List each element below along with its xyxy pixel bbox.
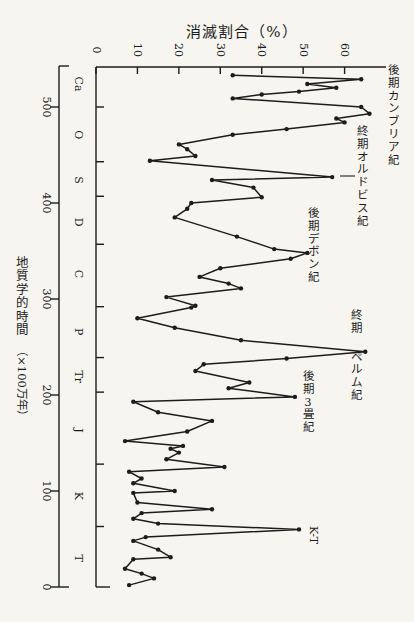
data-point	[297, 89, 301, 93]
period-label-p: P	[72, 328, 85, 336]
data-point	[173, 326, 177, 330]
data-point	[144, 535, 148, 539]
data-point	[210, 178, 214, 182]
data-point	[189, 305, 193, 309]
data-point	[284, 127, 288, 131]
data-point	[185, 147, 189, 151]
data-point	[131, 517, 135, 521]
data-point	[185, 207, 189, 211]
data-point	[231, 73, 235, 77]
data-point	[131, 557, 135, 561]
period-label-tr: Tr	[72, 370, 85, 383]
data-point	[359, 77, 363, 81]
data-point	[202, 362, 206, 366]
data-point	[181, 444, 185, 448]
data-point	[210, 507, 214, 511]
extinction-series-line	[125, 75, 370, 585]
data-point	[135, 316, 139, 320]
data-point	[342, 120, 346, 124]
data-point	[168, 447, 172, 451]
data-point	[210, 419, 214, 423]
time-axis-tick-label: 100	[40, 481, 53, 502]
data-point	[131, 400, 135, 404]
data-point	[284, 356, 288, 360]
data-point	[231, 133, 235, 137]
data-point	[293, 395, 297, 399]
period-label-s: S	[72, 176, 85, 184]
data-point	[193, 369, 197, 373]
pct-axis-tick-label: 20	[172, 43, 185, 57]
data-point	[359, 105, 363, 109]
data-point	[334, 86, 338, 90]
time-axis-title-char: 間	[16, 322, 29, 337]
annotation-3-char: 紀	[351, 388, 363, 402]
annotation-5: K-T	[307, 526, 320, 545]
pct-axis-tick-label: 10	[131, 43, 144, 57]
data-point	[131, 491, 135, 495]
data-point	[305, 82, 309, 86]
data-point	[135, 500, 139, 504]
data-point	[363, 350, 367, 354]
time-axis-title-unit: （×100万年）	[15, 345, 29, 421]
data-point	[156, 521, 160, 525]
data-point	[139, 571, 143, 575]
period-label-t: T	[72, 555, 85, 563]
data-point	[152, 576, 156, 580]
data-point	[272, 247, 276, 251]
extinction-chart: 01020304050605004003002001000CaOSDCPTrJK…	[0, 0, 414, 622]
data-point	[139, 476, 143, 480]
annotation-1-char: 紀	[357, 214, 369, 228]
annotation-2-char: 紀	[308, 270, 320, 284]
data-point	[289, 257, 293, 261]
data-point	[131, 539, 135, 543]
time-axis-tick-label: 500	[40, 97, 53, 118]
data-point	[218, 266, 222, 270]
annotation-0-char: 紀	[388, 153, 400, 167]
pct-axis-tick-label: 30	[214, 43, 227, 57]
data-point	[148, 159, 152, 163]
data-point	[193, 154, 197, 158]
time-axis-tick-label: 200	[40, 385, 53, 406]
data-point	[123, 439, 127, 443]
pct-axis-tick-label: 0	[90, 47, 103, 54]
period-label-c: C	[72, 270, 85, 278]
data-point	[177, 450, 181, 454]
period-label-ca: Ca	[72, 76, 85, 91]
data-point	[185, 429, 189, 433]
data-point	[251, 185, 255, 189]
data-point	[247, 380, 251, 384]
period-label-j: J	[72, 427, 85, 432]
time-axis-tick-label: 400	[40, 193, 53, 214]
data-point	[226, 281, 230, 285]
data-point	[239, 338, 243, 342]
data-point	[164, 295, 168, 299]
data-point	[330, 175, 334, 179]
data-point	[189, 201, 193, 205]
data-point	[131, 481, 135, 485]
data-point	[235, 234, 239, 238]
data-point	[156, 410, 160, 414]
data-point	[231, 96, 235, 100]
annotation-3-char: 期	[351, 321, 362, 335]
time-axis-tick-label: 300	[40, 289, 53, 310]
period-label-k: K	[72, 492, 85, 501]
time-axis-tick-label: 0	[40, 584, 53, 591]
pct-axis-tick-label: 40	[255, 43, 268, 57]
data-point	[156, 547, 160, 551]
data-point	[260, 92, 264, 96]
data-point	[123, 567, 127, 571]
data-point	[177, 142, 181, 146]
data-point	[260, 195, 264, 199]
data-point	[168, 555, 172, 559]
data-point	[127, 583, 131, 587]
data-point	[197, 275, 201, 279]
annotation-4-char: 紀	[303, 420, 315, 434]
data-point	[239, 286, 243, 290]
data-point	[222, 465, 226, 469]
data-point	[297, 527, 301, 531]
data-point	[173, 489, 177, 493]
period-label-o: O	[72, 130, 85, 139]
data-point	[164, 457, 168, 461]
pct-axis-tick-label: 60	[338, 43, 351, 57]
data-point	[193, 304, 197, 308]
